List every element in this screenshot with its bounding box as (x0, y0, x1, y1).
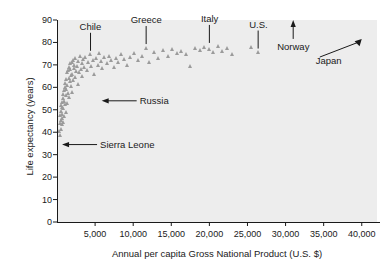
data-point-marker (193, 46, 197, 50)
y-axis-tick-label: 0 (10, 218, 52, 227)
x-axis-tick-label: 10,000 (119, 230, 147, 239)
data-point-marker (85, 68, 89, 72)
x-axis-tick-label: 35,000 (310, 230, 338, 239)
data-point-marker (73, 75, 77, 79)
data-point-marker (188, 64, 192, 68)
data-point-marker (179, 49, 183, 53)
data-point-marker (198, 48, 202, 52)
data-point-marker (184, 52, 188, 56)
data-point-marker (122, 57, 126, 61)
x-axis-tick-label: 20,000 (196, 230, 224, 239)
data-point-marker (114, 56, 118, 60)
y-axis-tick-label: 90 (10, 16, 52, 25)
data-point-marker (116, 60, 120, 64)
data-point-marker (65, 101, 69, 105)
plot-area (57, 20, 377, 222)
y-axis-title: Life expectancy (years) (24, 47, 35, 207)
annotation-label-greece: Greece (131, 15, 162, 25)
data-point-marker (102, 55, 106, 59)
data-point-marker (256, 50, 260, 54)
data-point-marker (152, 50, 156, 54)
data-point-marker (220, 49, 224, 53)
data-point-marker (83, 55, 87, 59)
x-axis-ticks (95, 222, 362, 226)
annotation-label-chile: Chile (80, 22, 102, 32)
data-point-marker (249, 45, 253, 49)
x-axis-tick-label: 40,000 (348, 230, 376, 239)
annotation-label-japan: Japan (316, 56, 342, 66)
annotation-label-u-s: U.S. (249, 20, 267, 30)
data-point-marker (112, 65, 116, 69)
x-axis-tick-label: 25,000 (234, 230, 262, 239)
annotation-label-russia: Russia (140, 96, 169, 106)
data-point-marker (67, 95, 71, 99)
data-point-marker (119, 52, 123, 56)
data-point-marker (207, 47, 211, 51)
data-point-marker (61, 120, 65, 124)
data-point-marker (202, 45, 206, 49)
data-point-marker (59, 127, 63, 131)
data-point-marker (140, 54, 144, 58)
annotation-label-norway: Norway (277, 42, 309, 52)
data-point-marker (89, 64, 93, 68)
data-point-marker (69, 84, 73, 88)
data-point-marker (136, 58, 140, 62)
data-point-marker (58, 133, 62, 137)
data-point-marker (94, 56, 98, 60)
data-point-marker (166, 54, 170, 58)
data-point-marker (70, 90, 74, 94)
annotation-label-italy: Italy (201, 14, 218, 24)
data-point-marker (144, 46, 148, 50)
data-point-marker (105, 61, 109, 65)
data-point-marker (230, 52, 234, 56)
data-point-marker (225, 46, 229, 50)
data-point-marker (211, 50, 215, 54)
x-axis-tick-label: 15,000 (158, 230, 186, 239)
scatter-chart-figure: 0102030405060708090 5,00010,00015,00020,… (0, 0, 384, 267)
data-point-marker (216, 44, 220, 48)
data-point-marker (64, 110, 68, 114)
data-point-marker (147, 60, 151, 64)
annotation-label-sierra-leone: Sierra Leone (100, 140, 154, 150)
data-point-marker (92, 72, 96, 76)
data-point-marker (97, 51, 101, 55)
data-point-marker (88, 52, 92, 56)
data-point-marker (156, 56, 160, 60)
data-point-marker (175, 51, 179, 55)
data-point-marker (170, 47, 174, 51)
x-axis-tick-label: 5,000 (84, 230, 107, 239)
data-point-marker (62, 114, 66, 118)
data-point-marker (99, 59, 103, 63)
data-point-marker (109, 58, 113, 62)
data-point-marker (80, 74, 84, 78)
data-point-marker (161, 48, 165, 52)
x-axis-tick-label: 30,000 (272, 230, 300, 239)
data-point-marker (107, 54, 111, 58)
data-point-marker (76, 82, 80, 86)
data-point-marker (100, 66, 104, 70)
data-point-marker (132, 51, 136, 55)
x-axis-title: Annual per capita Gross National Product… (57, 248, 377, 259)
data-point-marker (125, 63, 129, 67)
